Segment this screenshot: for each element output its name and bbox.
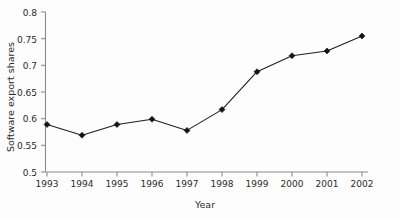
data-point-2000 [289, 53, 295, 59]
data-point-1993 [44, 122, 50, 128]
y-tick-label-0: 0.5 [23, 168, 37, 178]
chart-figure: Software export shares 0.5 0.55 0.6 0.65… [0, 0, 400, 218]
y-axis-title: Software export shares [5, 42, 16, 152]
x-tick-label-6: 1999 [246, 179, 269, 189]
data-point-2001 [324, 48, 330, 54]
y-tick-label-1: 0.55 [17, 141, 37, 151]
x-tick-label-2: 1995 [106, 179, 129, 189]
data-point-1996 [149, 116, 155, 122]
y-tick-label-4: 0.7 [23, 61, 37, 71]
x-tick-label-9: 2002 [351, 179, 374, 189]
data-point-2002 [359, 33, 365, 39]
y-tick-label-2: 0.6 [23, 114, 38, 124]
x-tick-label-7: 2000 [281, 179, 304, 189]
data-point-1995 [114, 122, 120, 128]
data-point-1994 [79, 132, 85, 138]
x-tick-label-1: 1994 [71, 179, 94, 189]
x-tick-label-5: 1998 [211, 179, 234, 189]
x-tick-label-8: 2001 [316, 179, 339, 189]
y-tick-label-3: 0.65 [17, 88, 37, 98]
series-markers-group [44, 33, 365, 138]
series-line-software-export-shares [47, 36, 362, 135]
x-tick-label-0: 1993 [36, 179, 59, 189]
x-tick-label-3: 1996 [141, 179, 164, 189]
line-chart-canvas: Software export shares 0.5 0.55 0.6 0.65… [0, 0, 400, 218]
x-tick-label-4: 1997 [176, 179, 199, 189]
y-tick-label-6: 0.8 [23, 8, 38, 18]
data-point-1997 [184, 127, 190, 133]
x-axis-title: Year [194, 199, 215, 210]
y-tick-label-5: 0.75 [17, 35, 37, 45]
